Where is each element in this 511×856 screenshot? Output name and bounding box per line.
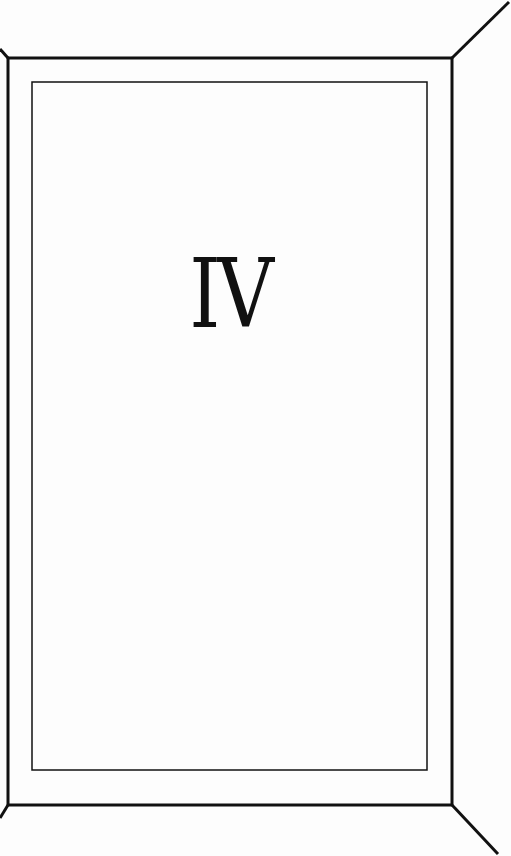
diagonal-bottom-right bbox=[452, 805, 498, 854]
outer-frame bbox=[8, 58, 452, 805]
diagonal-top-right bbox=[452, 2, 509, 58]
room-diagram bbox=[0, 0, 511, 856]
diagonal-bottom-left bbox=[0, 805, 8, 818]
diagonal-top-left bbox=[0, 49, 8, 58]
roman-numeral-label: IV bbox=[148, 244, 312, 344]
inner-frame bbox=[32, 82, 427, 770]
